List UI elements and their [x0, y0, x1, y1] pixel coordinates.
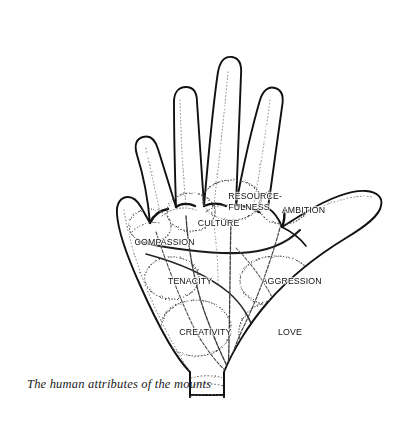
- mount-label-resourcefulness: RESOURCE- FULNESS: [228, 190, 282, 212]
- mount-label-aggression: AGGRESSION: [262, 275, 322, 286]
- figure-page: RESOURCE- FULNESS AMBITION CULTURE COMPA…: [0, 0, 420, 435]
- mount-label-compassion: COMPASSION: [135, 236, 195, 247]
- mount-label-creativity: CREATIVITY: [179, 326, 231, 337]
- figure-caption-line-2: mounts: [174, 377, 211, 391]
- mount-label-love: LOVE: [278, 326, 302, 337]
- mount-label-ambition: AMBITION: [282, 204, 325, 215]
- mount-label-tenacity: TENACITY: [168, 275, 212, 286]
- figure-caption: The human attributes of the mounts: [27, 377, 242, 393]
- mount-label-culture: CULTURE: [198, 217, 240, 228]
- figure-caption-line-1: The human attributes of the: [27, 377, 171, 391]
